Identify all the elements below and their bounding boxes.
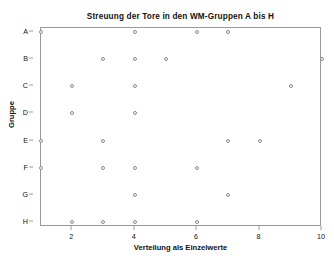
data-point [226, 139, 230, 143]
data-point [39, 166, 43, 170]
data-point [133, 193, 137, 197]
data-point [195, 166, 199, 170]
data-point [101, 166, 105, 170]
y-tick-mark [29, 193, 33, 194]
data-point [101, 220, 105, 224]
x-tick-mark [71, 226, 72, 230]
data-point [133, 30, 137, 34]
chart-title: Streuung der Tore in den WM-Gruppen A bi… [40, 12, 321, 21]
x-axis-title: Verteilung als Einzelwerte [40, 243, 321, 252]
data-point [133, 111, 137, 115]
y-tick-label-f: F [24, 162, 28, 171]
data-point [195, 220, 199, 224]
y-tick-mark [29, 166, 33, 167]
data-point [164, 57, 168, 61]
x-tick-mark [133, 226, 134, 230]
data-point [133, 220, 137, 224]
y-tick-mark [29, 31, 33, 32]
y-tick-label-c: C [23, 81, 28, 90]
y-tick-mark [29, 221, 33, 222]
y-tick-label-e: E [23, 135, 28, 144]
y-tick-label-d: D [23, 108, 28, 117]
y-tick-label-b: B [23, 54, 28, 63]
x-tick-mark [321, 226, 322, 230]
x-tick-label-10: 10 [317, 232, 325, 241]
data-point [70, 220, 74, 224]
data-point [133, 84, 137, 88]
x-tick-label-8: 8 [257, 232, 261, 241]
x-tick-mark [196, 226, 197, 230]
data-point [289, 84, 293, 88]
y-tick-mark [29, 112, 33, 113]
y-tick-mark [29, 85, 33, 86]
plot-area [40, 27, 321, 226]
data-point [101, 57, 105, 61]
data-point [195, 30, 199, 34]
y-tick-mark [29, 58, 33, 59]
data-point [320, 57, 324, 61]
data-point [70, 84, 74, 88]
x-tick-label-2: 2 [69, 232, 73, 241]
data-point [133, 166, 137, 170]
x-tick-label-4: 4 [132, 232, 136, 241]
data-point [39, 139, 43, 143]
data-point [226, 193, 230, 197]
y-tick-label-a: A [23, 27, 28, 36]
x-tick-mark [258, 226, 259, 230]
y-tick-mark [29, 139, 33, 140]
data-point [226, 30, 230, 34]
y-tick-label-h: H [23, 217, 28, 226]
data-point [39, 30, 43, 34]
y-tick-label-g: G [22, 189, 28, 198]
data-point [101, 139, 105, 143]
scatter-plot-figure: Streuung der Tore in den WM-Gruppen A bi… [0, 0, 334, 268]
data-point [70, 111, 74, 115]
x-tick-label-6: 6 [194, 232, 198, 241]
data-point [258, 139, 262, 143]
data-point [133, 57, 137, 61]
